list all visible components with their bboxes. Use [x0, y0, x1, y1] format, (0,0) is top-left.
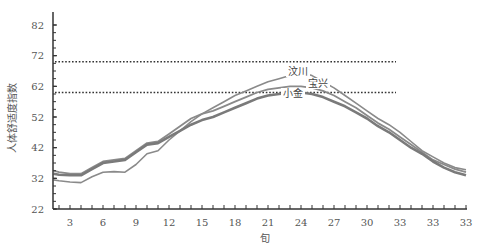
y-tick-label: 72 [31, 50, 44, 61]
x-tick-label: 24 [295, 217, 308, 228]
series-label-1: 宝兴 [308, 77, 328, 89]
y-tick-label: 52 [31, 112, 44, 123]
x-tick-label: 15 [196, 217, 209, 228]
x-tick-label: 18 [229, 217, 242, 228]
x-tick-label: 21 [262, 217, 275, 228]
y-tick-label: 82 [31, 20, 44, 31]
x-tick-label: 9 [133, 217, 139, 228]
x-tick-label: 12 [163, 217, 176, 228]
y-tick-label: 22 [31, 204, 44, 215]
series-label-2: 小金 [283, 87, 303, 99]
series-label-0: 汶川 [288, 65, 308, 77]
reference-lines [55, 62, 396, 93]
axes [53, 12, 467, 209]
y-tick-label: 42 [31, 142, 44, 153]
series-line-0 [54, 73, 467, 183]
x-tick-label: 3 [67, 217, 73, 228]
y-tick-label: 62 [31, 81, 44, 92]
x-tick-label: 33 [427, 217, 440, 228]
x-tick-label: 33 [394, 217, 407, 228]
y-axis-title: 人体舒适度指数 [6, 83, 18, 153]
comfort-index-chart: 汶川宝兴小金 22324252627282 369121518212427303… [0, 0, 487, 252]
series-line-2 [54, 93, 467, 176]
x-tick-label: 30 [361, 217, 374, 228]
series-lines [54, 73, 467, 183]
x-axis-title: 旬 [260, 232, 270, 244]
y-tick-label: 32 [31, 173, 44, 184]
x-tick-label: 33 [460, 217, 473, 228]
x-tick-label: 27 [328, 217, 341, 228]
x-tick-label: 6 [100, 217, 106, 228]
